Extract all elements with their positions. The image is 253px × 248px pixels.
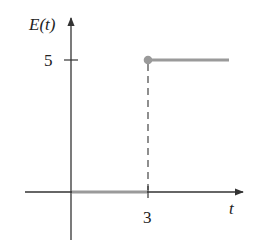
- x-tick-label-3: 3: [143, 208, 152, 227]
- y-axis-label: E(t): [28, 15, 56, 34]
- x-axis-label: t: [229, 199, 235, 218]
- step-function-chart: E(t) 5 3 t: [0, 0, 253, 248]
- y-tick-label-5: 5: [44, 51, 53, 70]
- closed-dot-marker: [144, 56, 153, 65]
